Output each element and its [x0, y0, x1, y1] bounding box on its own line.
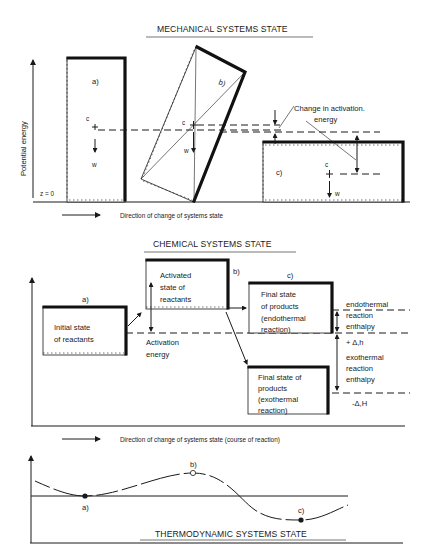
chemical-section: CHEMICAL SYSTEMS STATE a) Initial state … — [31, 239, 410, 444]
chem-state-c-endo-line4: reaction) — [261, 325, 291, 334]
point-c-filled-dot — [298, 517, 303, 522]
mech-state-b: b) c w — [141, 47, 245, 202]
mechanical-direction-label: Direction of change of systems state — [120, 212, 223, 220]
energy-states-diagram: MECHANICAL SYSTEMS STATE Potential energ… — [0, 0, 430, 558]
chem-state-a-line1: Initial state — [54, 323, 90, 332]
activation-label-1: Activation — [146, 338, 179, 347]
chem-state-b: Activated state of reactants b) — [146, 260, 240, 309]
endo-label-1: endothermal — [346, 300, 389, 309]
endo-delta-label: + Δ,h — [346, 338, 364, 347]
thermodynamic-title: THERMODYNAMIC SYSTEMS STATE — [155, 529, 307, 539]
chem-state-c-endo-line2: of products — [261, 302, 299, 311]
chem-state-b-line3: reactants — [160, 295, 191, 304]
chem-state-c-endo: c) Final state of products (endothermal … — [249, 271, 332, 334]
thermo-point-c-label: c) — [298, 506, 305, 515]
mech-state-c: c) c w — [263, 142, 403, 202]
y-axis-label: Potential energy — [19, 121, 28, 176]
point-a-filled-dot — [82, 493, 87, 498]
endo-label-2: reaction — [346, 311, 373, 320]
chem-state-c-exo-line4: reaction) — [258, 406, 288, 415]
chem-state-a-label: a) — [82, 295, 89, 304]
state-a-label: a) — [92, 77, 99, 86]
mechanical-title: MECHANICAL SYSTEMS STATE — [157, 24, 288, 34]
mech-state-a: a) c w — [67, 58, 125, 202]
state-c-label: c) — [276, 168, 283, 177]
chem-state-c-exo: Final state of products (exothermal reac… — [248, 367, 328, 415]
weight-label: w — [334, 190, 340, 197]
exo-delta-label: -Δ,H — [352, 399, 367, 408]
chem-state-a: a) Initial state of reactants — [43, 295, 126, 355]
chem-state-c-exo-line2: products — [258, 384, 287, 393]
exo-label-2: reaction — [346, 364, 373, 373]
chemical-direction-label: Direction of change of systems state (co… — [120, 436, 280, 444]
thermo-point-b-label: b) — [190, 460, 197, 469]
activation-label-2: energy — [146, 350, 169, 359]
activation-change-label-2: energy — [314, 115, 337, 124]
chem-state-c-label: c) — [287, 271, 294, 280]
thermodynamic-section: a) b) c) THERMODYNAMIC SYSTEMS STATE — [30, 456, 403, 543]
annotation-leader — [279, 106, 294, 128]
point-b-open-dot — [190, 470, 195, 475]
chem-state-b-line1: Activated — [160, 271, 191, 280]
chem-state-c-endo-line3: (endothermal — [261, 314, 306, 323]
weight-label: w — [183, 147, 189, 154]
chem-state-b-line2: state of — [160, 283, 186, 292]
chem-state-c-exo-line3: (exothermal — [258, 395, 298, 404]
mechanical-section: MECHANICAL SYSTEMS STATE Potential energ… — [19, 24, 410, 220]
chemical-title: CHEMICAL SYSTEMS STATE — [153, 239, 272, 249]
chem-state-a-line2: of reactants — [54, 335, 94, 344]
activation-change-label: Change in activation. — [294, 104, 365, 113]
b-to-c-exo-arrow — [226, 312, 247, 364]
endo-label-3: enthalpy — [346, 322, 375, 331]
chem-state-c-exo-line1: Final state of — [258, 373, 302, 382]
weight-label: w — [91, 161, 97, 168]
chem-state-c-endo-line1: Final state — [261, 290, 296, 299]
exo-label-3: enthalpy — [346, 375, 375, 384]
exo-label-1: exothermal — [346, 353, 384, 362]
thermo-point-a-label: a) — [82, 503, 89, 512]
chem-state-b-label: b) — [233, 267, 240, 276]
zero-label: z = 0 — [40, 190, 54, 197]
a-to-b-arrow — [128, 313, 141, 326]
